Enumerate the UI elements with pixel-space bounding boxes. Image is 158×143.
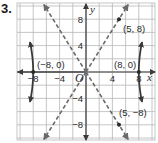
y-tick-label: 4 bbox=[78, 40, 83, 51]
asymptote-line bbox=[86, 72, 128, 139]
asymptote-point-upper-point bbox=[117, 17, 121, 21]
x-tick-label: −4 bbox=[54, 73, 65, 84]
left-vertex-label: (−8, 0) bbox=[37, 59, 65, 70]
hyperbola-graph: −8−44884−4−8 x y O (−8, 0) (8, 0) (5, 8)… bbox=[0, 0, 158, 143]
x-tick-label: −8 bbox=[28, 73, 39, 84]
y-tick-label: −8 bbox=[72, 119, 83, 130]
origin-label: O bbox=[75, 71, 84, 85]
asymptote-point-upper-label: (5, 8) bbox=[123, 23, 145, 34]
x-axis-label: x bbox=[146, 71, 152, 83]
asymptote-point-lower-point bbox=[117, 123, 121, 127]
y-tick-label: −4 bbox=[72, 93, 83, 104]
y-tick-label: 8 bbox=[78, 14, 83, 25]
y-axis-label: y bbox=[89, 3, 95, 15]
asymptote-point-lower-label: (5, −8) bbox=[119, 107, 147, 118]
x-tick-label: 8 bbox=[136, 73, 141, 84]
x-tick-label: 4 bbox=[110, 73, 115, 84]
right-vertex-label: (8, 0) bbox=[114, 59, 136, 70]
